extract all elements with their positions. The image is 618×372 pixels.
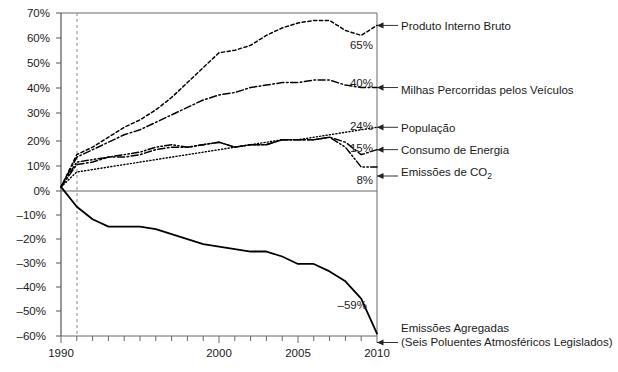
series-label-gdp: Produto Interno Bruto (401, 20, 511, 34)
value-label-gdp: 65% (333, 40, 373, 52)
chart-plot-area (0, 0, 618, 372)
y-tick-marks (56, 13, 61, 336)
series-label-co2: Emissões de CO2 (401, 166, 492, 181)
ytick-label-10: 10% (6, 161, 50, 173)
series-label-co2-subscript: 2 (487, 171, 492, 181)
series-line-1 (61, 80, 377, 187)
series-line-3 (61, 137, 377, 187)
ytick-label-40: 40% (6, 83, 50, 95)
leader-arrowhead-3 (377, 147, 384, 153)
series-label-energy: Consumo de Energia (401, 144, 509, 158)
ytick-label-20: 20% (6, 136, 50, 148)
series-line-5 (61, 187, 377, 334)
chart-figure: 70% 60% 50% 40% 30% 20% 10% 0% –10% –20%… (0, 0, 618, 372)
xtick-label-2010: 2010 (351, 348, 403, 360)
leader-arrowhead-5 (377, 339, 384, 345)
ytick-label-neg60: –60% (2, 331, 46, 343)
ytick-label-neg30: –30% (2, 258, 46, 270)
ytick-label-neg40: –40% (2, 282, 46, 294)
leader-arrowhead-0 (377, 22, 384, 28)
series-label-aggregate: Emissões Agregadas (Seis Poluentes Atmos… (401, 322, 613, 349)
xtick-label-2000: 2000 (193, 348, 245, 360)
series-label-vmt: Milhas Percorridas pelos Veículos (401, 84, 574, 98)
value-label-co2: 8% (333, 175, 373, 187)
ytick-label-30: 30% (6, 108, 50, 120)
series-label-aggregate-line1: Emissões Agregadas (401, 322, 613, 336)
value-label-population: 24% (333, 121, 373, 133)
ytick-label-neg20: –20% (2, 234, 46, 246)
ytick-label-0: 0% (6, 186, 50, 198)
series-label-aggregate-line2: (Seis Poluentes Atmosféricos Legislados) (401, 336, 613, 350)
value-label-energy: 15% (333, 143, 373, 155)
xtick-label-1990: 1990 (35, 348, 87, 360)
annotation-leaders (377, 22, 398, 345)
leader-arrowhead-1 (377, 84, 384, 90)
ytick-label-neg50: –50% (2, 306, 46, 318)
series-line-0 (61, 20, 377, 186)
xtick-label-2005: 2005 (272, 348, 324, 360)
value-label-vmt: 40% (333, 78, 373, 90)
ytick-label-70: 70% (6, 8, 50, 20)
ytick-label-neg10: –10% (2, 210, 46, 222)
series-layer (61, 20, 377, 333)
series-line-4 (61, 137, 377, 187)
series-label-population: População (401, 122, 455, 136)
x-tick-marks (61, 336, 377, 343)
series-label-co2-text: Emissões de CO (401, 166, 487, 178)
leader-arrowhead-4 (377, 173, 384, 179)
ytick-label-50: 50% (6, 58, 50, 70)
value-label-aggregate: –59% (327, 300, 367, 312)
leader-arrowhead-2 (377, 124, 384, 130)
ytick-label-60: 60% (6, 33, 50, 45)
